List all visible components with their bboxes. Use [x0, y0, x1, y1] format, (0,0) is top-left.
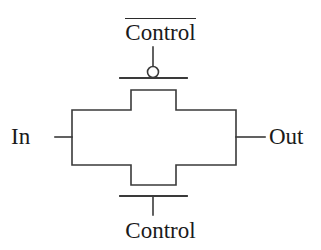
inversion-bubble-icon: [148, 67, 159, 78]
control-complement-label: Control: [0, 18, 321, 44]
control-complement-label-text: Control: [125, 18, 195, 44]
input-label-text: In: [11, 124, 30, 149]
output-label-text: Out: [269, 124, 304, 149]
control-label: Control: [0, 219, 321, 242]
input-label: In: [11, 125, 30, 148]
output-label: Out: [269, 125, 304, 148]
transmission-gate-body-icon: [72, 90, 236, 185]
schematic-canvas: Control Control In Out: [0, 0, 321, 250]
control-label-text: Control: [125, 218, 195, 243]
